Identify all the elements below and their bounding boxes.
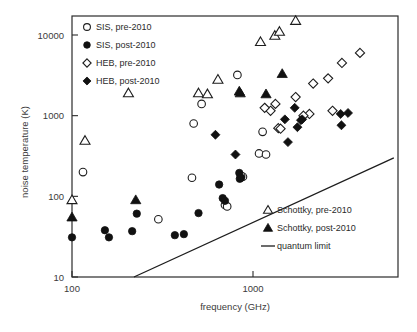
data-point bbox=[68, 234, 75, 241]
data-point bbox=[190, 120, 198, 128]
data-point bbox=[234, 71, 242, 79]
data-point bbox=[259, 128, 267, 136]
y-tick-label: 100 bbox=[48, 191, 64, 202]
y-axis-title: noise temperature (K) bbox=[19, 106, 30, 198]
legend-schottky-item: Schottky, post-2010 bbox=[263, 223, 355, 233]
legend-label: Schottky, post-2010 bbox=[277, 223, 356, 233]
legend-label: Schottky, pre-2010 bbox=[277, 205, 352, 215]
y-tick-label: 10 bbox=[53, 272, 64, 283]
x-tick-label: 100 bbox=[64, 283, 80, 294]
data-point bbox=[198, 100, 206, 108]
legend-label: SIS, pre-2010 bbox=[96, 22, 152, 32]
y-tick-label: 1000 bbox=[43, 110, 64, 121]
legend-marker bbox=[84, 42, 91, 49]
data-point bbox=[221, 197, 228, 204]
data-point bbox=[101, 227, 108, 234]
x-axis-title: frequency (GHz) bbox=[200, 301, 270, 312]
chart-canvas: 10100100010000 1001000 frequency (GHz) n… bbox=[0, 0, 417, 332]
data-point bbox=[79, 168, 87, 176]
data-point bbox=[262, 151, 270, 159]
legend-label: HEB, post-2010 bbox=[96, 76, 160, 86]
noise-temperature-chart: 10100100010000 1001000 frequency (GHz) n… bbox=[0, 0, 417, 332]
legend-label: HEB, pre-2010 bbox=[96, 58, 156, 68]
data-point bbox=[133, 210, 140, 217]
data-point bbox=[180, 230, 187, 237]
legend-marker bbox=[84, 24, 91, 31]
legend-schottky-item: Schottky, pre-2010 bbox=[264, 205, 352, 215]
data-point bbox=[128, 227, 135, 234]
data-point bbox=[155, 215, 163, 223]
legend-label: SIS, post-2010 bbox=[96, 40, 156, 50]
data-point bbox=[105, 234, 112, 241]
data-point bbox=[171, 231, 178, 238]
data-point bbox=[215, 181, 222, 188]
x-tick-label: 1000 bbox=[242, 283, 263, 294]
data-point bbox=[188, 174, 196, 182]
data-point bbox=[237, 174, 244, 181]
legend-label: quantum limit bbox=[277, 241, 331, 251]
data-point bbox=[255, 150, 263, 158]
y-tick-label: 10000 bbox=[38, 30, 64, 41]
data-point bbox=[195, 209, 202, 216]
